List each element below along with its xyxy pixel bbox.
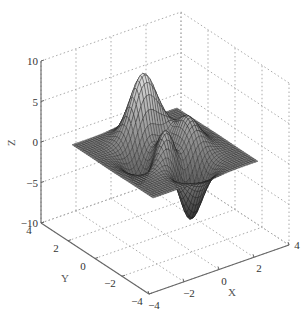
x-tick-label: 4 [294, 239, 300, 251]
x-tick-label: 0 [221, 275, 227, 287]
surface-mesh [72, 73, 258, 219]
y-tick-label: −2 [104, 277, 116, 289]
z-axis-label: Z [5, 139, 17, 146]
y-tick-label: 2 [53, 242, 59, 254]
x-tick-label: −4 [148, 299, 160, 311]
y-tick-label: −4 [131, 295, 143, 307]
x-tick-label: 2 [256, 262, 262, 274]
z-tick-label: 5 [33, 96, 39, 108]
x-tick-label: −2 [183, 287, 195, 299]
z-tick-label: 10 [27, 55, 39, 67]
y-tick-label: 0 [80, 260, 86, 272]
surface-plot: −10−50510−4−2024−4−2024 X Y Z [0, 0, 306, 316]
z-tick-label: −5 [26, 177, 38, 189]
z-tick-label: 0 [33, 136, 39, 148]
y-tick-label: 4 [26, 224, 32, 236]
x-axis-label: X [228, 286, 236, 298]
y-axis-label: Y [61, 272, 69, 284]
